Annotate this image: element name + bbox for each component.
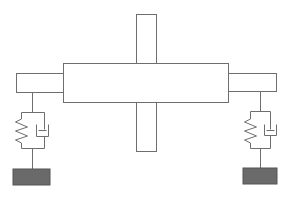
right-spring-icon (245, 112, 257, 149)
schematic-svg (0, 0, 290, 197)
right-arm (229, 74, 277, 92)
right-ground-block (243, 168, 277, 184)
left-spring-damper-mount (16, 93, 49, 170)
left-spring-icon (16, 113, 28, 149)
right-spring-damper-mount (245, 92, 277, 169)
main-body (64, 64, 229, 103)
left-ground-block (13, 169, 50, 185)
left-arm (17, 74, 64, 93)
diagram-canvas (0, 0, 290, 197)
